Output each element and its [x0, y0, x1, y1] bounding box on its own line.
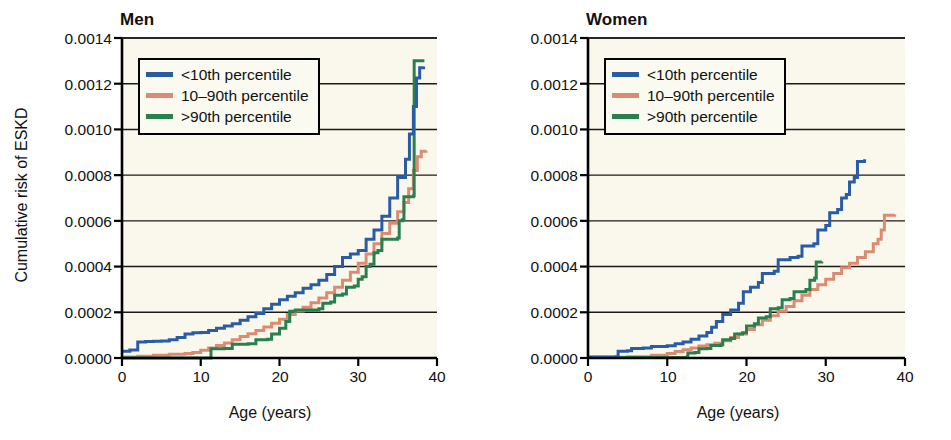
legend-label: <10th percentile	[647, 67, 758, 83]
y-tick-label: 0.0008	[482, 167, 578, 185]
y-tick-label: 0.0006	[482, 213, 578, 231]
y-tick-label: 0.0002	[16, 304, 112, 322]
y-tick-label: 0.0010	[16, 121, 112, 139]
legend-item: >90th percentile	[146, 106, 310, 127]
x-tick-label: 20	[260, 368, 300, 386]
y-tick-label: 0.0014	[482, 30, 578, 48]
legend-men: <10th percentile 10–90th percentile >90t…	[138, 58, 320, 135]
legend-label: >90th percentile	[647, 109, 758, 125]
y-tick-label: 0.0010	[482, 121, 578, 139]
legend-label: >90th percentile	[181, 109, 292, 125]
legend-item: <10th percentile	[146, 64, 310, 85]
x-tick-label: 0	[568, 368, 608, 386]
y-tick-label: 0.0004	[482, 258, 578, 276]
figure-root: Men Cumulative risk of ESKD Age (years) …	[0, 0, 951, 440]
legend-item: <10th percentile	[612, 64, 776, 85]
legend-label: 10–90th percentile	[647, 88, 775, 104]
y-tick-label: 0.0000	[16, 350, 112, 368]
legend-swatch-blue-icon	[146, 72, 173, 77]
y-tick-label: 0.0014	[16, 30, 112, 48]
legend-swatch-green-icon	[146, 114, 173, 119]
legend-item: 10–90th percentile	[612, 85, 776, 106]
panel-women: Women Age (years) 0.0000 0.0002 0.0004 0…	[476, 0, 951, 440]
legend-women: <10th percentile 10–90th percentile >90t…	[604, 58, 786, 135]
legend-item: >90th percentile	[612, 106, 776, 127]
x-tick-label: 30	[338, 368, 378, 386]
y-tick-label: 0.0012	[16, 76, 112, 94]
legend-swatch-blue-icon	[612, 72, 639, 77]
x-tick-label: 20	[727, 368, 767, 386]
legend-item: 10–90th percentile	[146, 85, 310, 106]
y-tick-label: 0.0008	[16, 167, 112, 185]
x-tick-label: 10	[648, 368, 688, 386]
legend-swatch-salmon-icon	[146, 93, 173, 98]
y-tick-label: 0.0012	[482, 76, 578, 94]
x-tick-label: 40	[885, 368, 925, 386]
legend-swatch-salmon-icon	[612, 93, 639, 98]
x-tick-label: 30	[806, 368, 846, 386]
legend-swatch-green-icon	[612, 114, 639, 119]
y-tick-label: 0.0000	[482, 350, 578, 368]
legend-label: 10–90th percentile	[181, 88, 309, 104]
x-tick-label: 40	[417, 368, 457, 386]
y-tick-label: 0.0004	[16, 258, 112, 276]
y-tick-label: 0.0002	[482, 304, 578, 322]
panel-men: Men Cumulative risk of ESKD Age (years) …	[0, 0, 475, 440]
x-tick-label: 10	[181, 368, 221, 386]
legend-label: <10th percentile	[181, 67, 292, 83]
x-tick-label: 0	[102, 368, 142, 386]
y-tick-label: 0.0006	[16, 213, 112, 231]
